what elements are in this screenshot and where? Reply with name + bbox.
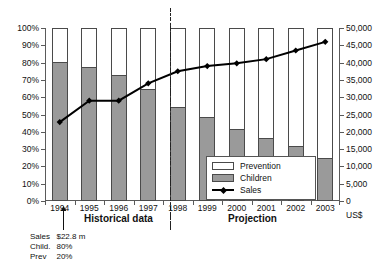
legend-label-prevention: Prevention [240,161,281,171]
annotation-label: Child. [30,242,56,252]
annotation-label: Sales [30,232,56,242]
x-axis-tick [134,201,135,205]
left-axis-tick-label: 60% [22,92,39,102]
x-axis-tick [222,201,223,205]
legend-label-sales: Sales [240,185,261,195]
sales-data-point [175,68,181,74]
annotation-arrow-icon [59,206,68,230]
right-axis-tick-label: 25,000 [346,110,372,120]
x-axis-label-2000: 2000 [227,203,246,213]
open-rect-swatch-icon [212,162,234,170]
left-axis-tick-label: 20% [22,161,39,171]
x-axis-label-2003: 2003 [316,203,335,213]
x-axis-tick [75,201,76,205]
annotation-value: 20% [56,252,91,262]
right-axis-tick-label: 20,000 [346,127,372,137]
x-axis-tick [252,201,253,205]
x-axis-label-2001: 2001 [257,203,276,213]
right-axis-tick-label: 30,000 [346,92,372,102]
legend-item-children: Children [212,172,310,184]
left-axis-tick-label: 30% [22,144,39,154]
legend-label-children: Children [240,173,272,183]
annotation-row: Prev20% [30,252,91,262]
historical-data-label: Historical data [84,213,153,224]
right-axis-tick [340,28,344,29]
line-marker-swatch-icon [212,186,234,194]
left-axis-tick-label: 50% [22,110,39,120]
sales-data-point [234,60,240,66]
x-axis-label-1996: 1996 [109,203,128,213]
projection-divider [170,8,171,230]
left-axis-tick-label: 90% [22,40,39,50]
right-axis-tick [340,166,344,167]
right-axis-tick [340,115,344,116]
x-axis-label-1997: 1997 [139,203,158,213]
x-axis-label-1995: 1995 [80,203,99,213]
right-axis-tick-label: 5,000 [346,179,367,189]
annotation-value: 80% [56,242,91,252]
right-axis-tick [340,63,344,64]
left-axis-tick-label: 10% [22,179,39,189]
x-axis-label-1999: 1999 [198,203,217,213]
annotation-box: Sales$22.8 mChild.80%Prev20% [30,232,91,262]
chart-figure: 0%10%20%30%40%50%60%70%80%90%100% 05,000… [0,0,386,275]
right-axis-tick [340,45,344,46]
x-axis-tick [104,201,105,205]
sales-data-point [293,47,299,53]
x-axis-tick [339,201,340,205]
annotation-row: Sales$22.8 m [30,232,91,242]
projection-label: Projection [228,213,277,224]
right-axis-tick-label: 40,000 [346,58,372,68]
right-axis-tick [340,132,344,133]
right-axis-tick-label: 0 [346,196,351,206]
left-axis-tick-label: 0% [27,196,39,206]
x-axis-label-1998: 1998 [168,203,187,213]
right-axis-tick-label: 50,000 [346,23,372,33]
sales-data-point [322,39,328,45]
x-axis-tick [163,201,164,205]
sales-line-path [60,42,326,122]
left-axis-tick-label: 80% [22,58,39,68]
chart-legend: Prevention Children Sales [206,156,316,200]
x-axis-tick [45,201,46,205]
gray-rect-swatch-icon [212,174,234,182]
sales-data-point [204,63,210,69]
annotation-row: Child.80% [30,242,91,252]
right-axis-tick [340,201,344,202]
left-axis-tick-label: 100% [17,23,39,33]
right-axis-tick [340,97,344,98]
right-axis-tick [340,184,344,185]
x-axis-tick [311,201,312,205]
right-axis-tick-label: 35,000 [346,75,372,85]
annotation-label: Prev [30,252,56,262]
annotation-table: Sales$22.8 mChild.80%Prev20% [30,232,91,262]
left-axis-tick-label: 70% [22,75,39,85]
right-axis-tick-label: 10,000 [346,161,372,171]
left-axis-tick-label: 40% [22,127,39,137]
sales-data-point [263,56,269,62]
right-axis-tick-label: 15,000 [346,144,372,154]
right-axis-tick-label: 45,000 [346,40,372,50]
right-axis-tick [340,149,344,150]
x-axis-tick [281,201,282,205]
legend-item-prevention: Prevention [212,160,310,172]
right-axis-tick [340,80,344,81]
right-axis-unit-label: US$ [346,210,363,220]
x-axis-label-2002: 2002 [286,203,305,213]
annotation-value: $22.8 m [56,232,91,242]
x-axis-tick [193,201,194,205]
legend-item-sales: Sales [212,184,310,196]
